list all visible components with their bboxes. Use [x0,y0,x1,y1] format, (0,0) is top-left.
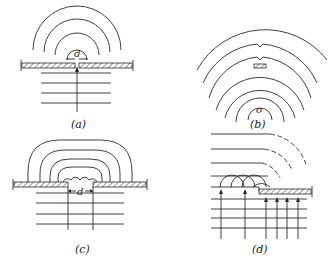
panel-a: d (a) [21,6,133,131]
panel-label-c: (c) [75,243,90,256]
barrier-right [79,63,132,68]
wavefront-arc [40,150,120,182]
slit-width-label: d [74,48,80,59]
diffracted-wavefront [264,149,292,170]
obstacle [254,64,266,68]
barrier-left [14,182,68,187]
panel-c: d (c) [13,140,147,256]
barrier-left [22,63,75,68]
panel-d: (d) [211,134,312,256]
wavefront-arc [28,140,132,182]
diffracted-wavefront [270,134,306,164]
source-label: o [256,104,262,115]
barrier-right [93,182,146,187]
panel-label-a: (a) [71,118,86,131]
panel-b: o (b) [197,30,327,131]
barrier [259,189,311,194]
aperture-width-label: d [77,186,83,197]
propagation-arrows [219,189,300,239]
huygens-wavelets [63,177,97,182]
huygens-wavelets [220,175,270,187]
panel-label-d: (d) [252,243,268,256]
wavefront-arc [33,6,121,50]
panel-label-b: (b) [250,118,266,131]
diffraction-figure: d (a) o (b) [0,0,336,266]
wavefront-arc [50,159,110,182]
